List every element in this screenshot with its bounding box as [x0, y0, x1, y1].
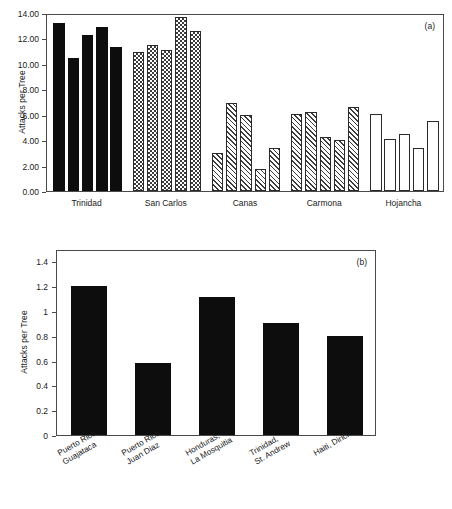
- panel-b-y-tick-label: 0.8: [0, 333, 48, 342]
- panel-a-bar: [320, 137, 331, 191]
- panel-b-y-tick-mark: [52, 287, 56, 288]
- panel-a-bar: [68, 58, 79, 192]
- panel-a-bar: [305, 112, 316, 191]
- figure-root: Attacks per Tree (a) 0.002.004.006.008.0…: [0, 0, 452, 509]
- panel-a-bar: [399, 134, 410, 191]
- panel-b-y-tick-label: 1.4: [0, 258, 48, 267]
- panel-a-group-label: San Carlos: [130, 198, 201, 208]
- panel-b-y-tick-label: 1.2: [0, 283, 48, 292]
- panel-a-y-tick-label: 6.00: [0, 112, 39, 121]
- panel-a-y-tick-mark: [42, 90, 46, 91]
- panel-a-y-tick-label: 4.00: [0, 137, 39, 146]
- panel-a-bar: [175, 17, 186, 191]
- panel-b-y-tick-label: 0.4: [0, 382, 48, 391]
- panel-a-chart: Attacks per Tree (a) 0.002.004.006.008.0…: [0, 0, 452, 232]
- panel-a-bar: [110, 47, 121, 191]
- panel-b-y-tick-mark: [52, 436, 56, 437]
- panel-a-group-label: Carmona: [289, 198, 360, 208]
- panel-a-y-tick-label: 8.00: [0, 86, 39, 95]
- panel-a-plot-area: (a): [46, 14, 444, 192]
- panel-a-group-label: Trinidad: [51, 198, 122, 208]
- panel-b-plot-area: (b): [56, 250, 376, 436]
- panel-b-y-axis-label: Attacks per Tree: [19, 292, 29, 392]
- panel-a-y-tick-label: 0.00: [0, 188, 39, 197]
- panel-a-y-tick-mark: [42, 65, 46, 66]
- panel-a-bar: [133, 52, 144, 191]
- panel-a-bar: [384, 139, 395, 191]
- panel-b-y-tick-label: 0.2: [0, 407, 48, 416]
- panel-b-y-tick-mark: [52, 262, 56, 263]
- panel-b-y-tick-mark: [52, 337, 56, 338]
- panel-a-bar: [334, 140, 345, 191]
- panel-a-bar: [240, 115, 251, 191]
- panel-b-y-tick-label: 1: [0, 308, 48, 317]
- panel-b-y-tick-mark: [52, 386, 56, 387]
- panel-a-tag: (a): [425, 21, 435, 31]
- panel-a-bar: [190, 31, 201, 191]
- panel-a-bar: [413, 148, 424, 191]
- panel-a-y-tick-label: 14.00: [0, 10, 39, 19]
- panel-a-bar: [161, 50, 172, 191]
- panel-a-bar: [212, 153, 223, 191]
- panel-b-bar: [263, 323, 298, 435]
- panel-a-y-tick-label: 2.00: [0, 163, 39, 172]
- panel-b-y-tick-label: 0: [0, 432, 48, 441]
- panel-a-y-tick-mark: [42, 192, 46, 193]
- panel-a-y-tick-label: 10.00: [0, 61, 39, 70]
- panel-a-y-tick-mark: [42, 116, 46, 117]
- panel-a-y-tick-mark: [42, 167, 46, 168]
- panel-b-y-tick-mark: [52, 312, 56, 313]
- panel-a-bar: [291, 114, 302, 191]
- panel-a-bar: [269, 148, 280, 191]
- panel-a-y-tick-mark: [42, 14, 46, 15]
- panel-b-chart: Attacks per Tree (b) 00.20.40.60.811.21.…: [0, 240, 452, 509]
- panel-a-y-tick-mark: [42, 141, 46, 142]
- panel-a-bar: [96, 27, 107, 191]
- panel-b-y-tick-label: 0.6: [0, 358, 48, 367]
- panel-b-y-tick-mark: [52, 411, 56, 412]
- panel-a-bar: [348, 107, 359, 191]
- panel-a-group-label: Hojancha: [368, 198, 439, 208]
- panel-a-group-label: Canas: [209, 198, 280, 208]
- panel-a-y-tick-label: 12.00: [0, 35, 39, 44]
- panel-a-bar: [255, 169, 266, 191]
- panel-b-bar: [199, 297, 234, 435]
- panel-a-y-tick-mark: [42, 39, 46, 40]
- panel-b-bar: [71, 286, 106, 435]
- panel-b-y-tick-mark: [52, 362, 56, 363]
- panel-a-bar: [427, 121, 438, 191]
- panel-a-bar: [53, 23, 64, 191]
- panel-a-bar: [226, 103, 237, 191]
- panel-a-bar: [147, 45, 158, 191]
- panel-b-bar: [135, 363, 170, 435]
- panel-a-bar: [370, 114, 381, 191]
- panel-b-tag: (b): [357, 257, 367, 267]
- panel-a-bar: [82, 35, 93, 191]
- panel-b-bar: [327, 336, 362, 435]
